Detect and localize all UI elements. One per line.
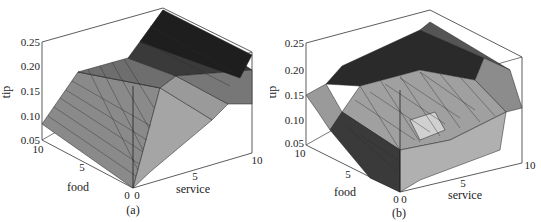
svg-text:0.15: 0.15 (21, 85, 41, 97)
service-tick-0-a: 0 (134, 189, 140, 201)
svg-text:0.10: 0.10 (285, 114, 305, 126)
service-tick-10-a: 10 (252, 154, 264, 166)
surface-plot-b: 0.25 0.20 0.15 0.10 0.05 tip 10 5 0 food… (270, 0, 541, 222)
z-axis-label-b: tip (270, 86, 279, 99)
svg-text:0.10: 0.10 (21, 110, 41, 122)
food-tick-10-b: 10 (295, 147, 307, 159)
food-axis-label-b: food (334, 185, 356, 199)
chart-panel-b: 0.25 0.20 0.15 0.10 0.05 tip 10 5 0 food… (270, 0, 541, 222)
svg-text:0.15: 0.15 (285, 89, 305, 101)
food-tick-0-a: 0 (124, 189, 130, 201)
surface-plot-a: 0.25 0.20 0.15 0.10 0.05 tip 10 5 0 food… (0, 0, 270, 222)
service-axis-label-b: service (448, 188, 482, 202)
z-ticks-a: 0.25 0.20 0.15 0.10 0.05 (21, 36, 41, 146)
food-tick-5-a: 5 (79, 161, 85, 173)
food-axis-label-a: food (67, 180, 89, 194)
service-tick-0-b: 0 (401, 193, 407, 205)
service-tick-10-b: 10 (525, 159, 537, 171)
chart-panel-a: 0.25 0.20 0.15 0.10 0.05 tip 10 5 0 food… (0, 0, 270, 222)
caption-a: (a) (126, 203, 139, 217)
surface-b (306, 22, 522, 192)
svg-text:0.20: 0.20 (285, 64, 305, 76)
service-tick-5-a: 5 (192, 170, 198, 182)
food-tick-5-b: 5 (345, 168, 351, 180)
z-axis-label-a: tip (0, 86, 13, 99)
svg-text:0.20: 0.20 (21, 60, 41, 72)
z-ticks-b: 0.25 0.20 0.15 0.10 0.05 (285, 37, 305, 149)
svg-text:0.25: 0.25 (285, 37, 305, 49)
svg-text:0.25: 0.25 (21, 36, 41, 48)
food-tick-0-b: 0 (393, 193, 399, 205)
food-tick-10-a: 10 (33, 143, 45, 155)
service-axis-label-a: service (176, 182, 210, 196)
caption-b: (b) (392, 206, 406, 220)
